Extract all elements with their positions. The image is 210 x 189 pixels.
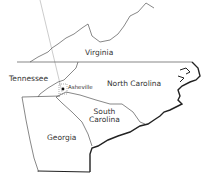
ga-west-border xyxy=(22,97,38,172)
ga-tn-border xyxy=(22,96,60,97)
map-canvas xyxy=(0,0,210,189)
state-label-north-carolina: North Carolina xyxy=(107,80,161,88)
asheville-dot xyxy=(62,88,65,91)
sc-line-2: Carolina xyxy=(89,116,120,124)
outer-banks xyxy=(178,68,190,82)
state-label-virginia: Virginia xyxy=(85,49,113,57)
city-label-asheville: Asheville xyxy=(68,85,93,91)
ga-south-border xyxy=(38,171,90,172)
state-label-tennessee: Tennessee xyxy=(9,75,48,83)
state-label-georgia: Georgia xyxy=(47,134,76,142)
state-label-south-carolina: South Carolina xyxy=(89,108,120,123)
